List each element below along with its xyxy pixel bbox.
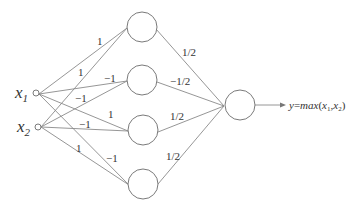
output-label: y=max(x1,x2) [288, 99, 346, 113]
neural-network-diagram: x1 x2 1 1 −1 −1 1 −1 1 −1 1/2 −1/2 1/2 1… [0, 0, 358, 213]
weight-h4-out: 1/2 [166, 150, 180, 162]
input-label-x1: x1 [14, 83, 28, 104]
hidden-node-4 [128, 169, 158, 199]
edge-h4-out [158, 106, 224, 184]
input-label-x2: x2 [16, 117, 31, 138]
weight-x2-h2: −1 [75, 92, 87, 104]
input-node-x2 [35, 124, 41, 130]
weight-h1-out: 1/2 [182, 46, 196, 58]
weight-x2-h4: 1 [76, 142, 82, 154]
weight-h3-out: 1/2 [170, 110, 184, 122]
edge-x1-h4 [39, 94, 129, 185]
hidden-node-1 [127, 12, 157, 42]
weight-x1-h3: 1 [108, 108, 114, 120]
output-node [225, 90, 255, 120]
weight-x1-h1: 1 [97, 35, 103, 47]
edge-h3-out [158, 106, 224, 132]
network-svg: x1 x2 1 1 −1 −1 1 −1 1 −1 1/2 −1/2 1/2 1… [0, 0, 358, 213]
hidden-node-3 [128, 115, 158, 145]
arrowhead-icon [280, 103, 286, 108]
weight-x1-h2: −1 [104, 72, 116, 84]
edge-h1-out [156, 29, 224, 106]
input-node-x1 [33, 90, 39, 96]
weight-x2-h1: 1 [78, 66, 84, 78]
weight-h2-out: −1/2 [170, 75, 190, 87]
hidden-node-2 [127, 65, 157, 95]
edge-x1-h1 [39, 28, 127, 94]
weight-x2-h3: −1 [79, 118, 91, 130]
weight-x1-h4: −1 [106, 152, 118, 164]
